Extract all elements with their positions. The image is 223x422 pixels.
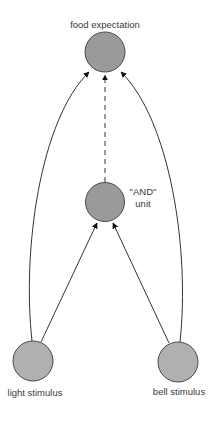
label-food-expectation: food expectation (55, 19, 155, 31)
node-food-expectation (85, 32, 125, 72)
edge-light-to-food (29, 72, 89, 341)
node-light-stimulus (13, 341, 53, 381)
label-bell-stimulus: bell stimulus (145, 386, 213, 398)
diagram-canvas (0, 0, 223, 422)
node-and-unit (86, 183, 125, 222)
label-and-unit-line1: "AND" (126, 186, 160, 198)
edge-bell-to-and (113, 223, 169, 343)
node-bell-stimulus (158, 342, 198, 382)
label-and-unit-line2: unit (126, 198, 160, 210)
edge-light-to-and (41, 223, 97, 342)
label-light-stimulus: light stimulus (0, 387, 70, 399)
